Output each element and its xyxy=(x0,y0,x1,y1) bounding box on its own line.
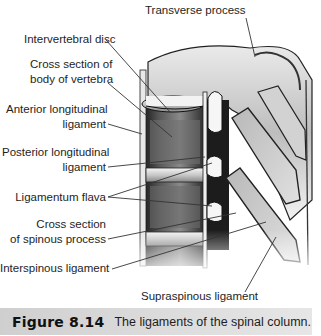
figure-caption-text: The ligaments of the spinal column. xyxy=(114,315,311,329)
label-posterior-longitudinal-line1: Posterior longitudinal xyxy=(2,146,106,159)
label-posterior-longitudinal-line2: ligament xyxy=(2,161,106,174)
label-anterior-longitudinal-line2: ligament xyxy=(6,118,106,131)
label-cross-section-body-line1: Cross section of xyxy=(30,58,105,71)
label-cross-section-spinous-line1: Cross section xyxy=(10,218,106,231)
label-interspinous-ligament: Interspinous ligament xyxy=(0,262,106,275)
figure-number: Figure 8.14 xyxy=(12,314,104,330)
label-cross-section-body-line2: body of vertebra xyxy=(30,73,105,86)
label-supraspinous-ligament: Supraspinous ligament xyxy=(141,290,258,303)
figure-caption: Figure 8.14 The ligaments of the spinal … xyxy=(0,308,312,335)
label-anterior-longitudinal-line1: Anterior longitudinal xyxy=(6,103,106,116)
label-ligamentum-flava: Ligamentum flava xyxy=(10,191,106,204)
spinal-column-figure: Transverse process Intervertebral disc C… xyxy=(0,0,321,300)
label-cross-section-spinous-line2: of spinous process xyxy=(10,233,106,246)
label-intervertebral-disc: Intervertebral disc xyxy=(24,33,115,46)
label-transverse-process: Transverse process xyxy=(145,4,246,17)
